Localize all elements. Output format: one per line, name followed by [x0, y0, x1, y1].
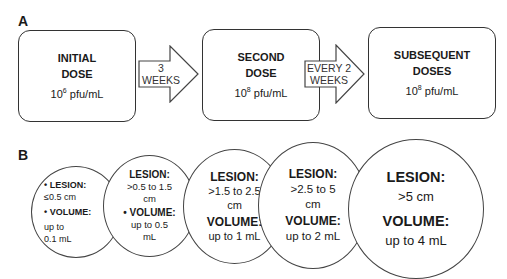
box-concentration: 108 pfu/mL: [235, 86, 288, 99]
box-title: DOSE: [61, 68, 92, 81]
box-title: DOSES: [413, 65, 452, 78]
arrow-every-2-weeks: EVERY 2 WEEKS: [304, 44, 366, 104]
box-title: SUBSEQUENT: [394, 49, 470, 62]
panel-a-label: A: [18, 13, 28, 29]
box-title: DOSE: [245, 67, 276, 80]
initial-dose-box: INITIAL DOSE 106 pfu/mL: [18, 30, 136, 122]
box-concentration: 108 pfu/mL: [406, 84, 459, 97]
second-dose-box: SECOND DOSE 108 pfu/mL: [202, 29, 320, 121]
box-title: SECOND: [237, 51, 284, 64]
arrow-3-weeks: 3 WEEKS: [138, 45, 200, 103]
panel-b-label: B: [18, 147, 28, 163]
box-concentration: 106 pfu/mL: [51, 87, 104, 100]
lesion-circle-5: LESION: >5 cm VOLUME: up to 4 mL: [348, 139, 484, 279]
subsequent-doses-box: SUBSEQUENT DOSES 108 pfu/mL: [368, 27, 496, 119]
box-title: INITIAL: [58, 52, 97, 65]
